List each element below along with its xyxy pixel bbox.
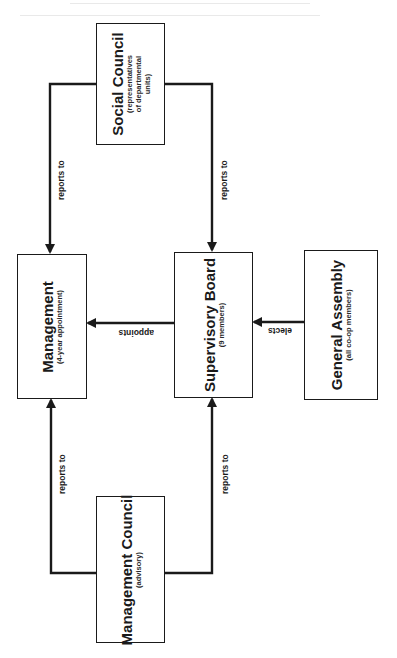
edge-social-to-supervisory [164, 84, 212, 250]
node-title: Management Council [118, 494, 135, 645]
edge-mgmt-council-to-supervisory [164, 399, 212, 573]
edge-label-reports-to: reports to [57, 454, 67, 494]
node-title: Supervisory Board [201, 258, 218, 392]
edge-label-elects: elects [268, 326, 292, 336]
node-title: Social Council [109, 32, 126, 135]
node-title: Management [39, 281, 56, 373]
edge-label-reports-to: reports to [56, 160, 66, 200]
node-supervisory-board: Supervisory Board (9 members) [174, 252, 253, 398]
node-subtitle: of departmental [135, 32, 144, 135]
node-social-council: Social Council (representatives of depar… [96, 23, 165, 145]
node-general-assembly: General Assembly (all co-op members) [304, 250, 378, 400]
edge-label-reports-to: reports to [220, 454, 230, 494]
org-chart-diagram: Social Council (representatives of depar… [0, 0, 397, 658]
node-title: General Assembly [328, 260, 345, 390]
node-management: Management (4-year appointment) [17, 254, 87, 399]
node-subtitle: units) [143, 32, 152, 135]
node-management-council: Management Council (advisory) [96, 496, 165, 643]
node-subtitle: (4-year appointment) [56, 281, 65, 373]
node-subtitle: (advisory) [135, 494, 144, 645]
node-subtitle: (all co-op members) [345, 260, 354, 390]
edge-label-appoints: appoints [119, 328, 154, 338]
node-subtitle: (9 members) [218, 258, 227, 392]
edge-label-reports-to: reports to [219, 160, 229, 200]
